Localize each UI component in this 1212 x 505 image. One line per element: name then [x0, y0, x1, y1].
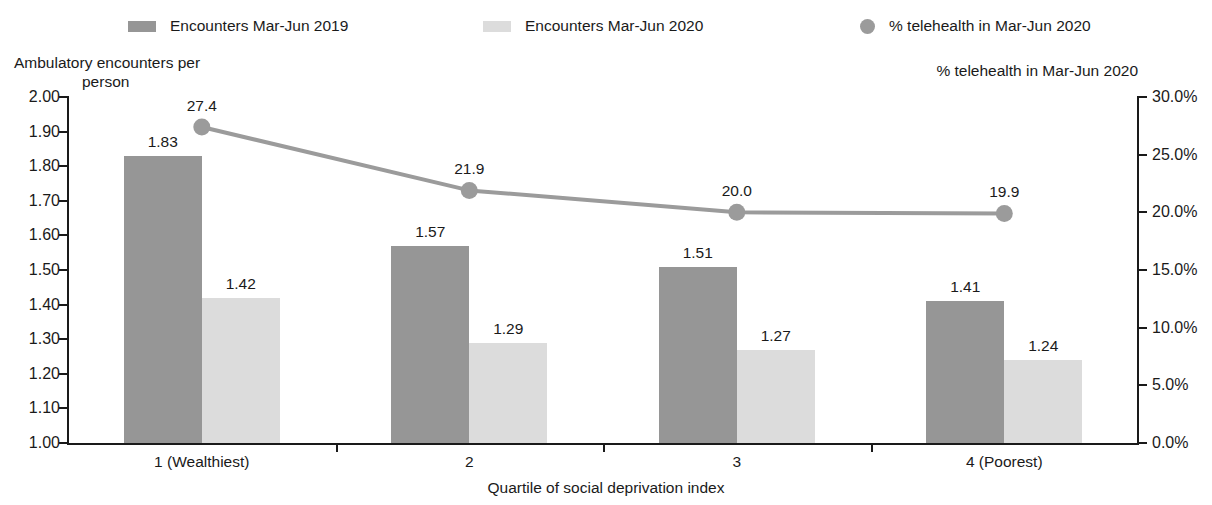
y-axis-left-title-line1: Ambulatory encounters per — [14, 54, 200, 71]
y-axis-left-tick — [59, 234, 67, 236]
y-axis-right-tick — [1139, 269, 1147, 271]
legend-label-2020: Encounters Mar-Jun 2020 — [525, 16, 703, 36]
y-axis-right-tick-label: 0.0% — [1152, 434, 1212, 452]
y-axis-left-tick-label: 1.70 — [8, 192, 60, 210]
y-axis-left-tick-label: 1.00 — [8, 434, 60, 452]
y-axis-left-tick-label: 2.00 — [8, 88, 60, 106]
legend-item-telehealth-pct[interactable]: % telehealth in Mar-Jun 2020 — [860, 16, 1091, 36]
y-axis-left-tick-label: 1.50 — [8, 261, 60, 279]
y-axis-left-tick-label: 1.30 — [8, 330, 60, 348]
y-axis-right-title: % telehealth in Mar-Jun 2020 — [890, 61, 1138, 80]
y-axis-left-tick — [59, 131, 67, 133]
plot-area: 1.831.421.571.291.511.271.411.24 27.421.… — [68, 97, 1138, 443]
y-axis-left-tick — [59, 200, 67, 202]
y-axis-left-tick-label: 1.60 — [8, 226, 60, 244]
y-axis-right-tick — [1139, 96, 1147, 98]
legend-label-2019: Encounters Mar-Jun 2019 — [170, 16, 348, 36]
y-axis-left-tick — [59, 442, 67, 444]
y-axis-left-tick-label: 1.80 — [8, 157, 60, 175]
x-axis-category-label: 2 — [336, 452, 604, 471]
x-axis-category-label: 3 — [603, 452, 871, 471]
telehealth-point-label: 19.9 — [954, 183, 1054, 201]
telehealth-point-label: 20.0 — [687, 182, 787, 200]
x-axis-tick — [603, 443, 605, 452]
telehealth-point-label: 21.9 — [419, 160, 519, 178]
y-axis-left-tick — [59, 304, 67, 306]
y-axis-left-tick — [59, 269, 67, 271]
legend-circle-marker-icon — [860, 19, 875, 34]
y-axis-right-tick-label: 5.0% — [1152, 376, 1212, 394]
y-axis-left-tick-label: 1.40 — [8, 296, 60, 314]
x-axis-category-label: 1 (Wealthiest) — [68, 452, 336, 471]
x-axis-category-label: 4 (Poorest) — [871, 452, 1139, 471]
x-axis-tick — [336, 443, 338, 452]
y-axis-right-tick-label: 30.0% — [1152, 88, 1212, 106]
y-axis-right-tick — [1139, 327, 1147, 329]
y-axis-right-tick-label: 15.0% — [1152, 261, 1212, 279]
y-axis-left-tick-label: 1.20 — [8, 365, 60, 383]
y-axis-right-tick — [1139, 442, 1147, 444]
y-axis-left-tick — [59, 407, 67, 409]
legend-swatch-icon-2020 — [483, 21, 511, 32]
y-axis-right-tick — [1139, 154, 1147, 156]
x-axis-tick — [871, 443, 873, 452]
telehealth-line — [202, 127, 1005, 214]
y-axis-right-tick-label: 20.0% — [1152, 203, 1212, 221]
telehealth-data-point[interactable] — [996, 205, 1013, 222]
telehealth-line-layer — [68, 97, 1138, 443]
telehealth-data-point[interactable] — [193, 119, 210, 136]
y-axis-right-tick-label: 25.0% — [1152, 146, 1212, 164]
y-axis-left-tick — [59, 165, 67, 167]
legend-label-telehealth: % telehealth in Mar-Jun 2020 — [889, 16, 1091, 36]
chart-legend: Encounters Mar-Jun 2019 Encounters Mar-J… — [0, 0, 1212, 44]
y-axis-right-tick — [1139, 384, 1147, 386]
telehealth-encounters-chart: Encounters Mar-Jun 2019 Encounters Mar-J… — [0, 0, 1212, 505]
y-axis-left-tick — [59, 338, 67, 340]
x-axis-title: Quartile of social deprivation index — [0, 478, 1212, 497]
y-axis-left-tick — [59, 373, 67, 375]
telehealth-data-point[interactable] — [728, 204, 745, 221]
y-axis-left-tick — [59, 96, 67, 98]
y-axis-right-tick — [1139, 211, 1147, 213]
legend-item-encounters-2019[interactable]: Encounters Mar-Jun 2019 — [128, 16, 348, 36]
legend-item-encounters-2020[interactable]: Encounters Mar-Jun 2020 — [483, 16, 703, 36]
telehealth-data-point[interactable] — [461, 182, 478, 199]
y-axis-left-title-line2: person — [82, 72, 200, 91]
y-axis-left-tick-label: 1.90 — [8, 123, 60, 141]
legend-swatch-icon-2019 — [128, 21, 156, 32]
y-axis-right-tick-label: 10.0% — [1152, 319, 1212, 337]
y-axis-left-title: Ambulatory encounters per person — [14, 53, 200, 91]
telehealth-point-label: 27.4 — [152, 97, 252, 115]
y-axis-left-tick-label: 1.10 — [8, 399, 60, 417]
